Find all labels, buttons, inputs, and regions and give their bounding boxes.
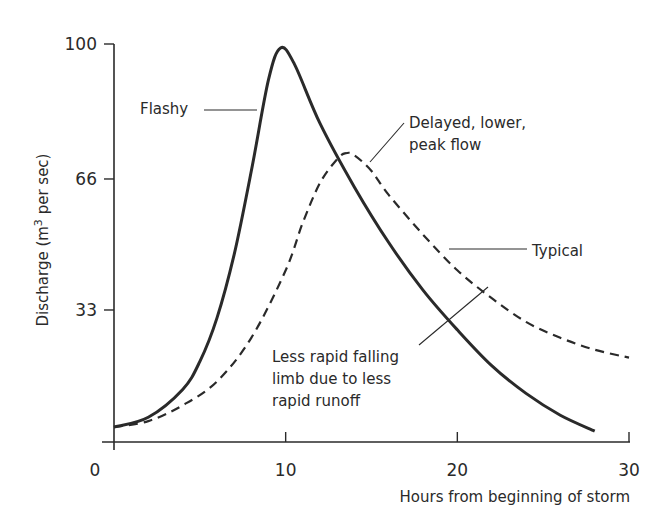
annotation-text: Typical	[531, 242, 583, 260]
y-axis-title-tail: per sec)	[34, 154, 52, 220]
leader-line	[370, 123, 404, 162]
hydrograph-chart: 3366100 102030 0 Discharge (m3 per sec) …	[0, 0, 669, 529]
y-ticks: 3366100	[65, 34, 114, 320]
y-axis-title: Discharge (m3 per sec)	[32, 154, 52, 327]
annotation-less-rapid: Less rapid fallinglimb due to lessrapid …	[272, 287, 488, 410]
y-axis-title-main: Discharge (m	[34, 226, 52, 326]
annotation-text: rapid runoff	[272, 392, 361, 410]
x-tick-label: 20	[447, 460, 469, 480]
y-axis-title-sup: 3	[32, 219, 45, 226]
annotation-text: Delayed, lower,	[409, 114, 526, 132]
x-tick-label: 10	[275, 460, 297, 480]
x-ticks: 102030	[275, 432, 640, 480]
annotation-flashy: Flashy	[140, 100, 257, 118]
y-tick-label: 66	[75, 169, 97, 189]
origin-label: 0	[90, 460, 101, 480]
annotation-text: limb due to less	[272, 370, 391, 388]
annotation-text: Less rapid falling	[272, 348, 399, 366]
annotation-text: Flashy	[140, 100, 188, 118]
annotation-delayed: Delayed, lower,peak flow	[370, 114, 526, 162]
y-tick-label: 33	[75, 300, 97, 320]
annotation-typical: Typical	[449, 242, 583, 260]
annotation-text: peak flow	[409, 136, 481, 154]
x-axis-title: Hours from beginning of storm	[400, 488, 630, 506]
y-tick-label: 100	[65, 34, 97, 54]
x-tick-label: 30	[618, 460, 640, 480]
annotations: FlashyDelayed, lower,peak flowTypicalLes…	[140, 100, 583, 410]
